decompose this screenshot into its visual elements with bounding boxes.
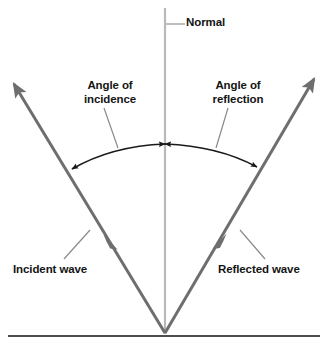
reflected-ray-direction-arrow <box>213 234 227 250</box>
angle-of-incidence-label-line2: incidence <box>84 93 136 105</box>
angle-of-reflection-label: Angle ofreflection <box>185 79 291 106</box>
incident-wave-leader-line <box>64 230 90 259</box>
angle-of-reflection-label-line1: Angle of <box>215 79 260 91</box>
reflection-diagram: Normal Angle ofincidence Angle ofreflect… <box>0 0 328 351</box>
incident-ray <box>14 84 165 333</box>
angle-of-reflection-label-line2: reflection <box>213 93 264 105</box>
incident-wave-label: Incident wave <box>13 263 87 277</box>
angle-of-incidence-label: Angle ofincidence <box>57 79 163 106</box>
normal-label: Normal <box>186 16 225 30</box>
angle-of-reflection-arc <box>165 144 257 167</box>
diagram-canvas <box>0 0 328 351</box>
angle-of-incidence-label-line1: Angle of <box>87 79 132 91</box>
reflected-ray <box>165 79 314 333</box>
reflected-wave-label: Reflected wave <box>218 263 300 277</box>
angle-of-incidence-leader-line <box>104 108 118 148</box>
incident-ray-direction-arrow <box>104 235 118 250</box>
angle-of-reflection-leader-line <box>216 108 228 148</box>
reflected-wave-leader-line <box>240 230 265 259</box>
